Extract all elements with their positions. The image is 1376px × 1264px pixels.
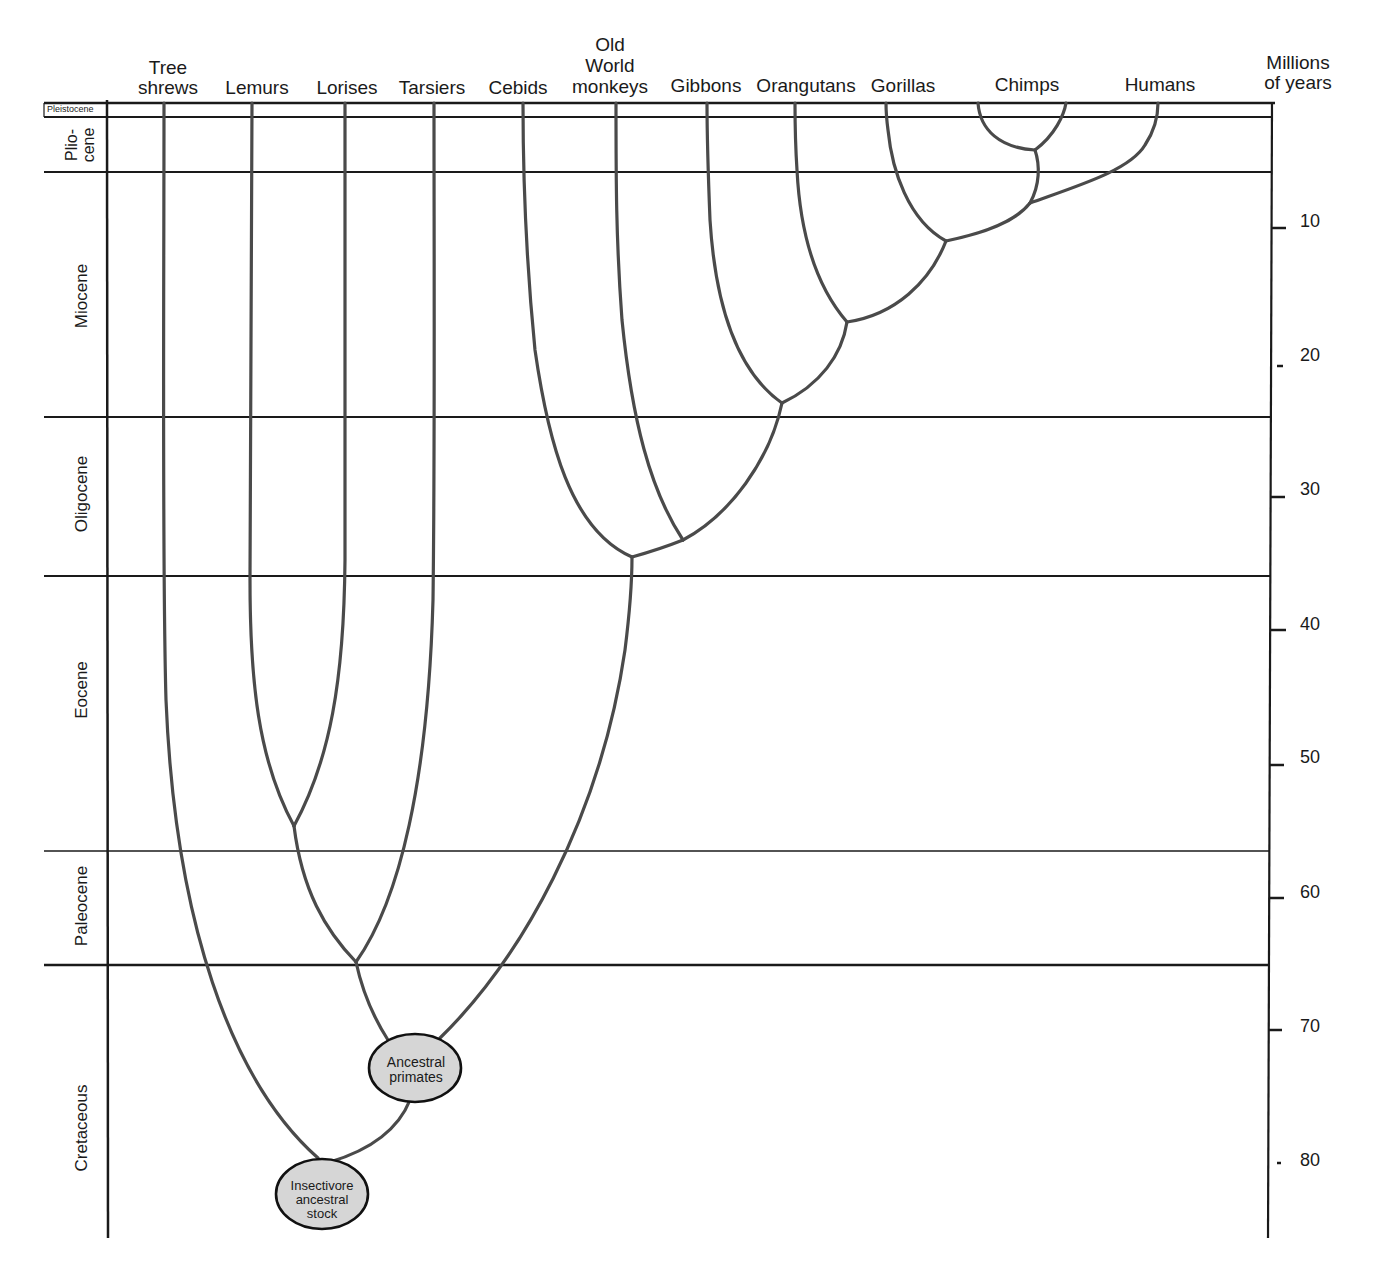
tick-label-70: 70 — [1300, 1016, 1320, 1037]
taxon-label-cebids: Cebids — [488, 78, 547, 98]
epoch-label-oligocene: Oligocene — [72, 456, 92, 533]
branch-insectivore-to-primates — [330, 1100, 410, 1162]
branches — [164, 103, 1159, 1162]
branch-lemurs — [250, 103, 294, 826]
branch-old-world-monkeys — [616, 103, 683, 540]
primate-phylogeny-diagram — [0, 0, 1376, 1264]
taxon-label-humans: Humans — [1125, 75, 1196, 95]
branch-to-african-ape-node — [847, 241, 946, 322]
taxon-label-gorillas: Gorillas — [871, 76, 935, 96]
node-label-line: stock — [291, 1207, 354, 1221]
node-label-line: ancestral — [291, 1193, 354, 1207]
left-border — [107, 100, 108, 1238]
tick-label-40: 40 — [1300, 614, 1320, 635]
epoch-label-line: Plio- — [63, 128, 80, 163]
taxon-label-old-world-monkeys: Old World monkeys — [572, 35, 648, 97]
axis-title-line: Millions — [1258, 53, 1338, 73]
branch-primates-to-prosimian-node — [356, 962, 388, 1040]
tick-label-80: 80 — [1300, 1150, 1320, 1171]
taxon-label-tarsiers: Tarsiers — [399, 78, 466, 98]
epoch-label-pliocene: Plio- cene — [63, 128, 97, 163]
tick-label-60: 60 — [1300, 882, 1320, 903]
branch-to-chimp-human-node — [946, 203, 1030, 241]
branch-to-chimp-node — [1030, 150, 1038, 203]
insectivore-ancestral-stock-label: Insectivore ancestral stock — [291, 1179, 354, 1221]
tick-label-10: 10 — [1300, 211, 1320, 232]
taxon-label-orangutans: Orangutans — [756, 76, 855, 96]
node-label-line: primates — [387, 1070, 445, 1085]
taxon-label-line: shrews — [138, 78, 198, 98]
taxon-label-chimps: Chimps — [995, 75, 1059, 95]
branch-orangutans — [795, 103, 847, 322]
taxon-label-line: Old — [572, 35, 648, 55]
time-axis — [1268, 103, 1272, 1238]
branch-tarsiers — [356, 103, 434, 962]
epoch-label-paleocene: Paleocene — [72, 866, 92, 946]
taxon-label-line: monkeys — [572, 77, 648, 97]
epoch-label-cretaceous: Cretaceous — [72, 1085, 92, 1172]
epoch-label-eocene: Eocene — [72, 661, 92, 719]
branch-tree-shrews — [164, 103, 319, 1158]
taxon-label-line: World — [572, 56, 648, 76]
axis-title: Millions of years — [1258, 53, 1338, 93]
taxon-label-lorises: Lorises — [316, 78, 377, 98]
epoch-label-pleistocene: Pleistocene — [47, 104, 94, 114]
branch-gibbons — [707, 103, 782, 403]
branch-to-ape-node — [683, 403, 782, 540]
epoch-label-line: cene — [80, 128, 97, 163]
taxon-label-line: Tree — [138, 58, 198, 78]
taxon-label-tree-shrews: Tree shrews — [138, 58, 198, 98]
branch-lorises — [294, 103, 345, 826]
axis-title-line: of years — [1258, 73, 1338, 93]
tick-label-30: 30 — [1300, 479, 1320, 500]
branch-to-lemur-loris-node — [294, 826, 356, 962]
epoch-label-miocene: Miocene — [72, 264, 92, 328]
branch-chimps-left — [978, 103, 1035, 150]
taxon-label-lemurs: Lemurs — [225, 78, 288, 98]
taxon-label-gibbons: Gibbons — [671, 76, 742, 96]
tick-label-20: 20 — [1300, 345, 1320, 366]
tick-label-50: 50 — [1300, 747, 1320, 768]
branch-chimps-right — [1035, 103, 1066, 150]
epoch-grid — [44, 100, 1275, 1238]
branch-to-catarrhine-node — [632, 540, 683, 557]
node-label-line: Ancestral — [387, 1055, 445, 1070]
branch-to-great-ape-node — [782, 322, 847, 403]
ancestral-primates-label: Ancestral primates — [387, 1055, 445, 1085]
node-label-line: Insectivore — [291, 1179, 354, 1193]
